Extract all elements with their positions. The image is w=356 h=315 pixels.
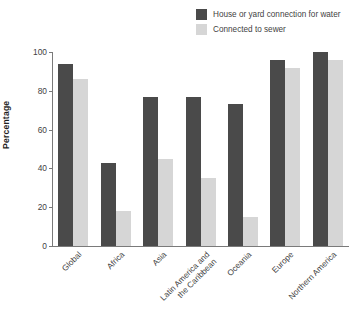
- bar[interactable]: [313, 52, 328, 246]
- bar[interactable]: [101, 163, 116, 246]
- bar[interactable]: [186, 97, 201, 246]
- x-axis-label: Europe: [271, 250, 297, 276]
- plot-area: 020406080100: [52, 52, 349, 246]
- bar[interactable]: [285, 68, 300, 246]
- legend-label-water: House or yard connection for water: [213, 9, 340, 20]
- legend-item-water: House or yard connection for water: [196, 9, 340, 20]
- bar-group: [313, 52, 343, 246]
- legend-label-sewer: Connected to sewer: [213, 24, 286, 35]
- legend-item-sewer: Connected to sewer: [196, 24, 340, 35]
- bar[interactable]: [73, 79, 88, 246]
- bar[interactable]: [116, 211, 131, 246]
- x-axis-label: Oceania: [225, 250, 254, 279]
- y-axis-title: Percentage: [1, 101, 11, 149]
- bar-group: [101, 52, 131, 246]
- bar[interactable]: [58, 64, 73, 246]
- bar-group: [270, 52, 300, 246]
- chart-legend: House or yard connection for water Conne…: [196, 9, 340, 35]
- x-axis-line: [52, 246, 349, 247]
- x-axis-label: Latin America andthe Caribbean: [158, 250, 218, 310]
- bar-group: [58, 52, 88, 246]
- y-axis-tick-mark: [49, 207, 52, 208]
- legend-swatch-sewer: [196, 24, 207, 35]
- bar-group: [186, 52, 216, 246]
- bar[interactable]: [228, 104, 243, 246]
- legend-swatch-water: [196, 9, 207, 20]
- x-axis-label: Asia: [151, 250, 169, 268]
- bar[interactable]: [201, 178, 216, 246]
- y-axis-tick-mark: [49, 246, 52, 247]
- y-axis-tick-mark: [49, 168, 52, 169]
- bar-group: [228, 52, 258, 246]
- x-axis-label: Global: [60, 250, 84, 274]
- y-axis-tick-mark: [49, 91, 52, 92]
- bar[interactable]: [328, 60, 343, 246]
- bar[interactable]: [143, 97, 158, 246]
- y-axis-tick-mark: [49, 52, 52, 53]
- bar[interactable]: [158, 159, 173, 246]
- bar[interactable]: [243, 217, 258, 246]
- bar-group: [143, 52, 173, 246]
- bar[interactable]: [270, 60, 285, 246]
- y-axis-tick-mark: [49, 130, 52, 131]
- x-axis-label: Africa: [105, 250, 127, 272]
